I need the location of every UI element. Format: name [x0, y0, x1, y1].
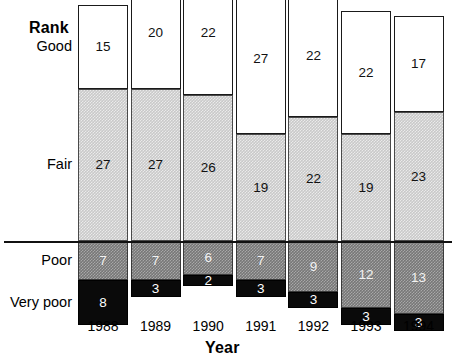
segment-value-label: 19 — [253, 181, 268, 195]
segment-value-label: 13 — [411, 271, 426, 285]
segment-value-label: 26 — [201, 161, 216, 175]
bar-segment-1990-fair[interactable]: 26 — [183, 95, 233, 241]
segment-value-label: 6 — [204, 251, 212, 265]
bar-segment-1991-good[interactable]: 27 — [236, 0, 286, 134]
bar-segment-1988-good[interactable]: 15 — [78, 5, 128, 89]
segment-value-label: 3 — [152, 282, 160, 296]
reference-line — [4, 241, 452, 243]
segment-value-label: 22 — [358, 66, 373, 80]
segment-value-label: 3 — [310, 293, 318, 307]
segment-value-label: 15 — [95, 40, 110, 54]
segment-value-label: 17 — [411, 57, 426, 71]
segment-value-label: 19 — [358, 181, 373, 195]
bar-segment-1991-fair[interactable]: 19 — [236, 134, 286, 241]
bar-segment-1989-good[interactable]: 20 — [131, 0, 181, 89]
bar-1989[interactable]: 202773 — [131, 0, 181, 363]
segment-value-label: 27 — [148, 158, 163, 172]
bar-segment-1992-fair[interactable]: 22 — [288, 117, 338, 241]
bar-segment-1993-poor[interactable]: 12 — [341, 241, 391, 308]
bar-1988[interactable]: 152778 — [78, 0, 128, 363]
segment-value-label: 3 — [257, 282, 265, 296]
bar-segment-1990-good[interactable]: 22 — [183, 0, 233, 95]
segment-value-label: 22 — [201, 26, 216, 40]
plot-area: 1527782027732226622719732222932219123172… — [0, 0, 455, 363]
stacked-bar-chart: Rank Year GoodFairPoorVery poor 15277820… — [0, 0, 455, 363]
bar-segment-1991-poor[interactable]: 7 — [236, 241, 286, 280]
bar-segment-1988-poor[interactable]: 7 — [78, 241, 128, 280]
bar-segment-1990-poor[interactable]: 6 — [183, 241, 233, 275]
bar-segment-1989-poor[interactable]: 7 — [131, 241, 181, 280]
bar-1990[interactable]: 222662 — [183, 0, 233, 363]
segment-value-label: 12 — [358, 268, 373, 282]
segment-value-label: 8 — [99, 296, 107, 310]
segment-value-label: 9 — [310, 260, 318, 274]
x-tick-1994: 1994 — [388, 318, 450, 334]
bar-1992[interactable]: 222293 — [288, 0, 338, 363]
bar-1991[interactable]: 271973 — [236, 0, 286, 363]
bar-segment-1993-good[interactable]: 22 — [341, 11, 391, 135]
bar-segment-1994-poor[interactable]: 13 — [394, 241, 444, 314]
segment-value-label: 20 — [148, 26, 163, 40]
bar-1994[interactable]: 1723133 — [394, 0, 444, 363]
bar-segment-1994-good[interactable]: 17 — [394, 16, 444, 112]
bar-segment-1992-good[interactable]: 22 — [288, 0, 338, 117]
segment-value-label: 23 — [411, 170, 426, 184]
segment-value-label: 22 — [306, 172, 321, 186]
segment-value-label: 27 — [95, 158, 110, 172]
bar-segment-1989-very-poor[interactable]: 3 — [131, 280, 181, 297]
bar-segment-1989-fair[interactable]: 27 — [131, 89, 181, 241]
bar-1993[interactable]: 2219123 — [341, 0, 391, 363]
bar-segment-1991-very-poor[interactable]: 3 — [236, 280, 286, 297]
bar-segment-1992-very-poor[interactable]: 3 — [288, 292, 338, 309]
segment-value-label: 2 — [204, 274, 212, 288]
bar-segment-1990-very-poor[interactable]: 2 — [183, 275, 233, 286]
bar-segment-1992-poor[interactable]: 9 — [288, 241, 338, 292]
bar-segment-1993-fair[interactable]: 19 — [341, 134, 391, 241]
bar-segment-1988-fair[interactable]: 27 — [78, 89, 128, 241]
segment-value-label: 7 — [152, 254, 160, 268]
segment-value-label: 22 — [306, 49, 321, 63]
segment-value-label: 27 — [253, 52, 268, 66]
segment-value-label: 7 — [257, 254, 265, 268]
bar-segment-1994-fair[interactable]: 23 — [394, 112, 444, 241]
segment-value-label: 7 — [99, 254, 107, 268]
